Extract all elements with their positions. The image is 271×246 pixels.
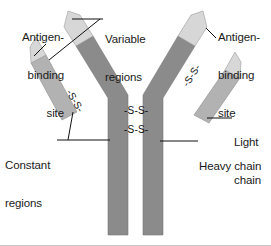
label-antigen-binding-site-left-line2: binding [2, 69, 64, 82]
label-constant-regions: Constant regions [5, 134, 61, 235]
label-variable-regions-line2: regions [105, 71, 167, 84]
label-antigen-binding-site-right-line1: Antigen- [218, 31, 271, 44]
label-constant-regions-line2: regions [5, 197, 61, 210]
label-antigen-binding-site-right-line2: binding [218, 69, 271, 82]
antibody-diagram-figure: Antigen- binding site Variable regions A… [0, 0, 271, 246]
label-heavy-chain: Heavy chain [199, 135, 271, 198]
label-antigen-binding-site-left-line3: site [2, 107, 64, 120]
label-variable-regions-line1: Variable [105, 33, 167, 46]
label-antigen-binding-site-left: Antigen- binding site [2, 6, 64, 145]
disulfide-bond-hinge-upper: -S-S- [124, 106, 148, 116]
label-variable-regions: Variable regions [105, 8, 167, 109]
leader-antigen-binding-right [206, 28, 216, 38]
disulfide-bond-hinge-lower: -S-S- [124, 125, 148, 135]
label-constant-regions-line1: Constant [5, 159, 61, 172]
label-antigen-binding-site-left-line1: Antigen- [2, 31, 64, 44]
label-heavy-chain-line1: Heavy chain [199, 160, 271, 173]
